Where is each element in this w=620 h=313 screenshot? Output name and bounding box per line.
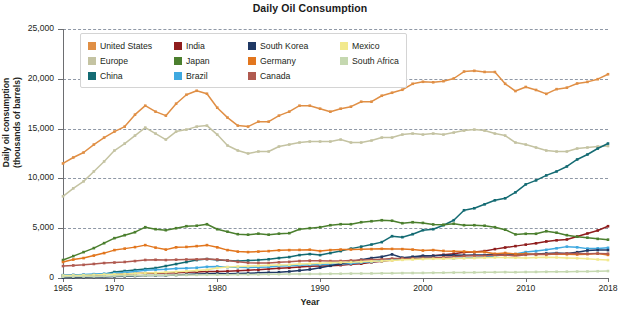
- series-marker: [134, 113, 137, 116]
- series-marker: [350, 248, 353, 251]
- series-marker: [257, 150, 260, 153]
- series-marker: [195, 274, 198, 277]
- series-marker: [144, 269, 147, 272]
- x-axis-tick-label: 1965: [53, 283, 72, 293]
- series-marker: [586, 232, 589, 235]
- series-marker: [442, 133, 445, 136]
- series-marker: [298, 273, 301, 276]
- legend-swatch-icon: [174, 42, 182, 50]
- series-marker: [329, 140, 332, 143]
- series-marker: [391, 253, 394, 256]
- series-marker: [555, 150, 558, 153]
- legend-label: South Africa: [352, 56, 399, 66]
- series-marker: [237, 124, 240, 127]
- series-marker: [442, 250, 445, 253]
- series-marker: [422, 80, 425, 83]
- series-marker: [185, 258, 188, 261]
- legend-item-china[interactable]: China: [88, 71, 174, 81]
- series-marker: [93, 275, 96, 278]
- series-marker: [576, 252, 579, 255]
- legend-item-japan[interactable]: Japan: [174, 56, 248, 66]
- series-marker: [566, 234, 569, 237]
- series-marker: [535, 256, 538, 259]
- series-marker: [494, 248, 497, 251]
- series-marker: [267, 250, 270, 253]
- series-marker: [319, 259, 322, 262]
- series-marker: [566, 270, 569, 273]
- legend-item-brazil[interactable]: Brazil: [174, 71, 248, 81]
- series-marker: [93, 263, 96, 266]
- series-marker: [267, 233, 270, 236]
- series-marker: [329, 273, 332, 276]
- series-marker: [370, 220, 373, 223]
- series-marker: [72, 258, 75, 261]
- series-marker: [257, 273, 260, 276]
- series-marker: [391, 136, 394, 139]
- series-marker: [144, 126, 147, 129]
- series-marker: [596, 147, 599, 150]
- series-marker: [411, 248, 414, 251]
- series-marker: [596, 238, 599, 241]
- series-marker: [278, 145, 281, 148]
- legend-item-germany[interactable]: Germany: [248, 56, 340, 66]
- series-marker: [134, 246, 137, 249]
- series-marker: [514, 191, 517, 194]
- series-marker: [288, 270, 291, 273]
- series-marker: [216, 267, 219, 270]
- series-marker: [267, 264, 270, 267]
- legend-label: Japan: [186, 56, 210, 66]
- series-marker: [494, 71, 497, 74]
- series-marker: [206, 274, 209, 277]
- legend-swatch-icon: [174, 72, 182, 80]
- series-marker: [237, 250, 240, 253]
- series-marker: [257, 268, 260, 271]
- series-marker: [237, 265, 240, 268]
- series-marker: [113, 249, 116, 252]
- series-marker: [411, 132, 414, 135]
- series-marker: [524, 232, 527, 235]
- legend-item-united-states[interactable]: United States: [88, 41, 174, 51]
- series-marker: [72, 275, 75, 278]
- legend-item-india[interactable]: India: [174, 41, 248, 51]
- series-marker: [535, 179, 538, 182]
- series-europe: [62, 124, 610, 197]
- series-marker: [596, 249, 599, 252]
- series-marker: [391, 219, 394, 222]
- series-marker: [278, 261, 281, 264]
- series-marker: [82, 257, 85, 260]
- series-marker: [123, 234, 126, 237]
- series-marker: [350, 105, 353, 108]
- series-marker: [237, 273, 240, 276]
- legend-item-south-korea[interactable]: South Korea: [248, 41, 340, 51]
- series-marker: [247, 125, 250, 128]
- series-marker: [555, 252, 558, 255]
- y-axis-tick-label: 15,000: [28, 123, 54, 133]
- series-marker: [535, 253, 538, 256]
- series-marker: [555, 231, 558, 234]
- series-marker: [463, 255, 466, 258]
- series-marker: [298, 141, 301, 144]
- series-marker: [298, 254, 301, 257]
- series-marker: [185, 267, 188, 270]
- series-marker: [545, 93, 548, 96]
- legend-item-south-africa[interactable]: South Africa: [340, 56, 410, 66]
- series-marker: [380, 255, 383, 258]
- series-marker: [154, 228, 157, 231]
- series-marker: [360, 221, 363, 224]
- series-marker: [308, 248, 311, 251]
- series-marker: [607, 73, 610, 76]
- series-marker: [607, 225, 610, 228]
- series-marker: [165, 138, 168, 141]
- legend-item-mexico[interactable]: Mexico: [340, 41, 410, 51]
- series-marker: [113, 237, 116, 240]
- series-marker: [514, 233, 517, 236]
- series-marker: [154, 268, 157, 271]
- legend-item-canada[interactable]: Canada: [248, 71, 340, 81]
- series-marker: [144, 259, 147, 262]
- series-marker: [391, 259, 394, 262]
- series-marker: [103, 252, 106, 255]
- legend-item-europe[interactable]: Europe: [88, 56, 174, 66]
- chart-legend: United StatesIndiaSouth KoreaMexicoEurop…: [80, 33, 407, 88]
- x-axis-tick-label: 1980: [208, 283, 227, 293]
- series-marker: [82, 275, 85, 278]
